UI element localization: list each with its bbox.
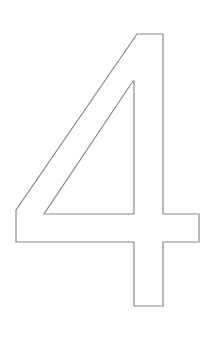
inner-counter-outline [44,81,134,214]
numeral-four-outline [0,0,217,340]
outer-outline [16,34,199,306]
